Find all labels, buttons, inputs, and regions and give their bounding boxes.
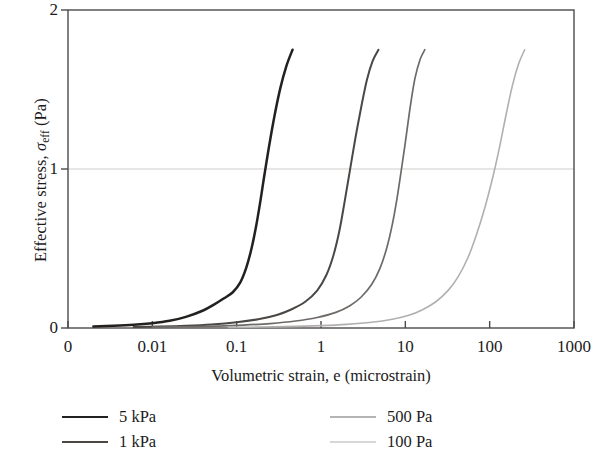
legend-item[interactable]: 5 kPa bbox=[62, 404, 294, 429]
series-line-3 bbox=[228, 50, 524, 328]
legend-swatch-line-icon bbox=[62, 412, 108, 422]
legend-item[interactable]: 500 Pa bbox=[330, 404, 562, 429]
legend-swatch-line-icon bbox=[330, 437, 376, 447]
legend-swatch-line-icon bbox=[330, 412, 376, 422]
legend-item[interactable]: 1 kPa bbox=[62, 429, 294, 454]
y-axis-title-symbol: σ bbox=[31, 143, 50, 151]
chart-plot-area bbox=[0, 0, 604, 458]
x-tick-label-5: 100 bbox=[450, 338, 530, 356]
x-tick-label-2: 0.1 bbox=[197, 338, 277, 356]
y-tick-label-0: 0 bbox=[14, 319, 58, 336]
legend-label: 100 Pa bbox=[387, 433, 432, 450]
x-tick-label-6: 1000 bbox=[534, 338, 604, 356]
y-tick-label-2: 2 bbox=[14, 1, 58, 18]
legend-item[interactable]: 100 Pa bbox=[330, 429, 562, 454]
x-tick-label-0: 0 bbox=[28, 338, 108, 356]
legend-label: 500 Pa bbox=[387, 408, 432, 425]
figure-chart: Effective stress, σeff (Pa) 012 00.010.1… bbox=[0, 0, 604, 458]
x-axis-title: Volumetric strain, e (microstrain) bbox=[68, 366, 574, 386]
legend-swatch-line-icon bbox=[62, 437, 108, 447]
series-line-0 bbox=[93, 50, 292, 327]
y-axis-title-subscript: eff bbox=[39, 130, 51, 143]
legend-label: 1 kPa bbox=[119, 433, 156, 450]
y-axis-title: Effective stress, σeff (Pa) bbox=[31, 45, 51, 315]
x-tick-label-3: 1 bbox=[281, 338, 361, 356]
legend-label: 5 kPa bbox=[119, 408, 156, 425]
chart-legend: 5 kPa500 Pa1 kPa100 Pa bbox=[62, 404, 562, 454]
series-line-1 bbox=[134, 50, 379, 327]
y-axis-title-suffix: (Pa) bbox=[31, 98, 50, 130]
x-tick-label-4: 10 bbox=[365, 338, 445, 356]
y-tick-label-1: 1 bbox=[14, 160, 58, 177]
x-tick-label-1: 0.01 bbox=[112, 338, 192, 356]
series-line-2 bbox=[152, 50, 424, 327]
